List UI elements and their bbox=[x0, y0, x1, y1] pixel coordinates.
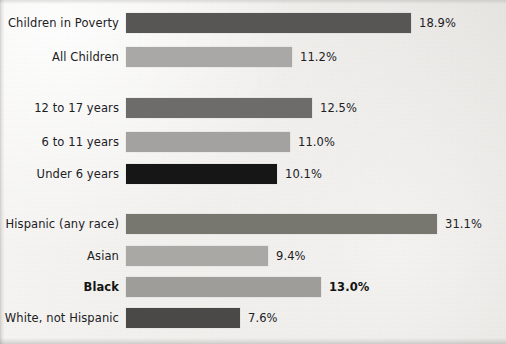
bar bbox=[126, 132, 290, 152]
bar bbox=[126, 246, 268, 266]
bar-value-label: 9.4% bbox=[276, 244, 306, 268]
bar-category-label: 6 to 11 years bbox=[0, 130, 119, 154]
bar-value-label: 11.2% bbox=[300, 45, 337, 69]
bar-value-label: 31.1% bbox=[445, 212, 482, 236]
bar-row: Black13.0% bbox=[0, 275, 506, 299]
bar-value-label: 12.5% bbox=[320, 96, 357, 120]
bar bbox=[126, 308, 240, 328]
bar-row: Under 6 years10.1% bbox=[0, 162, 506, 186]
bar-value-label: 13.0% bbox=[329, 275, 369, 299]
bar-row: Hispanic (any race)31.1% bbox=[0, 212, 506, 236]
bar-row: 12 to 17 years12.5% bbox=[0, 96, 506, 120]
bar bbox=[126, 98, 312, 118]
bar bbox=[126, 47, 292, 67]
bar-value-label: 10.1% bbox=[285, 162, 322, 186]
bar-value-label: 18.9% bbox=[419, 11, 456, 35]
bar-row: All Children11.2% bbox=[0, 45, 506, 69]
bar-value-label: 7.6% bbox=[248, 306, 278, 330]
bar-value-label: 11.0% bbox=[298, 130, 335, 154]
bar-category-label: Children in Poverty bbox=[0, 11, 119, 35]
bar-category-label: All Children bbox=[0, 45, 119, 69]
bar bbox=[126, 164, 277, 184]
bar-category-label: 12 to 17 years bbox=[0, 96, 119, 120]
bar-category-label: Under 6 years bbox=[0, 162, 119, 186]
bar-category-label: White, not Hispanic bbox=[0, 306, 119, 330]
bar-category-label: Hispanic (any race) bbox=[0, 212, 119, 236]
bar bbox=[126, 13, 411, 33]
bar-row: White, not Hispanic7.6% bbox=[0, 306, 506, 330]
bar bbox=[126, 214, 437, 234]
bar-category-label: Black bbox=[0, 275, 119, 299]
bar-row: Children in Poverty18.9% bbox=[0, 11, 506, 35]
bar bbox=[126, 277, 321, 297]
bar-chart: Children in Poverty18.9%All Children11.2… bbox=[0, 0, 506, 344]
bar-category-label: Asian bbox=[0, 244, 119, 268]
bar-row: Asian9.4% bbox=[0, 244, 506, 268]
bar-row: 6 to 11 years11.0% bbox=[0, 130, 506, 154]
